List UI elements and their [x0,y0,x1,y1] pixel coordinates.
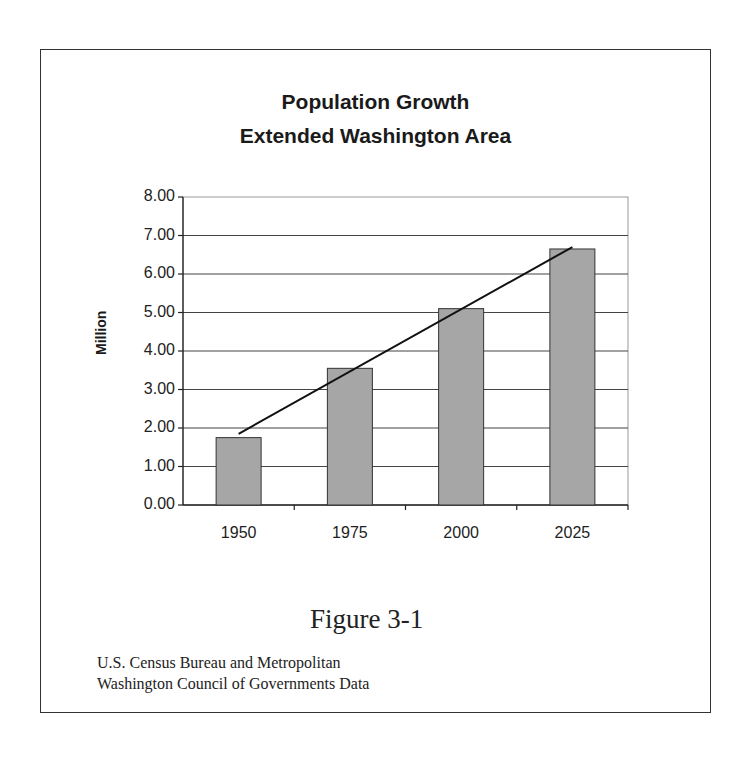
source-line2: Washington Council of Governments Data [97,675,369,693]
trendline [239,247,573,434]
bar-2025 [550,249,595,505]
bar-2000 [439,309,484,505]
bar-1950 [216,438,261,505]
bar-1975 [327,368,372,505]
source-line1: U.S. Census Bureau and Metropolitan [97,654,341,672]
plot-area [0,0,751,758]
figure-caption: Figure 3-1 [310,604,423,635]
